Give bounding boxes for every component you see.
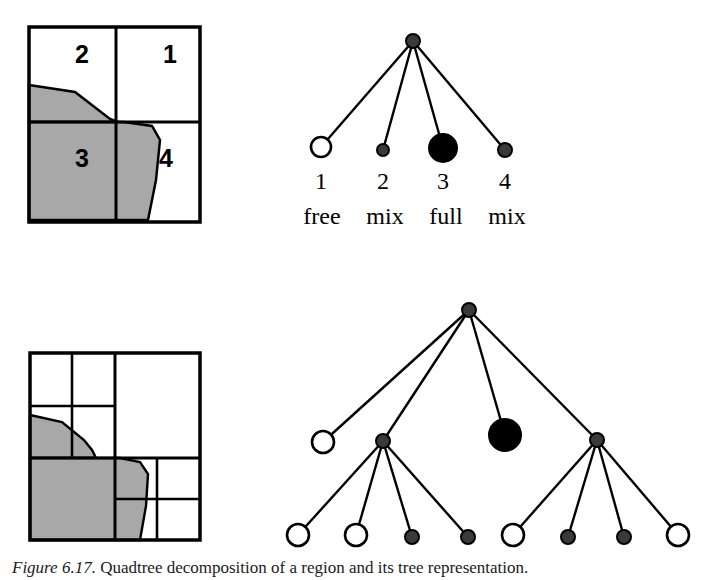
bottom-tree-svg	[0, 0, 721, 580]
btree-node-l1-mix-left[interactable]	[376, 434, 390, 448]
btree-leaf-5-free[interactable]	[502, 524, 524, 546]
btree-node-l1-free[interactable]	[312, 431, 334, 453]
btree-leaf-7-mix[interactable]	[617, 530, 631, 544]
btree-node-l1-mix-right[interactable]	[590, 433, 604, 447]
btree-leaf-6-mix[interactable]	[561, 530, 575, 544]
btree-node-l1-full[interactable]	[489, 419, 521, 451]
figure-root: 2 1 3 4 1 2 3 4	[0, 0, 721, 580]
btree-node-root[interactable]	[462, 303, 476, 317]
btree-leaf-1-free[interactable]	[287, 524, 309, 546]
figure-caption-text: Quadtree decomposition of a region and i…	[100, 558, 528, 577]
btree-leaf-2-free[interactable]	[345, 524, 367, 546]
figure-caption-label: Figure 6.17.	[12, 558, 96, 577]
btree-leaf-3-mix[interactable]	[405, 530, 419, 544]
btree-edge-left-4	[383, 441, 468, 537]
btree-edge-right-2	[568, 440, 597, 537]
btree-edge-left-3	[383, 441, 412, 537]
btree-edge-right-1	[513, 440, 597, 535]
figure-caption: Figure 6.17. Quadtree decomposition of a…	[12, 558, 712, 578]
btree-leaf-8-free[interactable]	[667, 524, 689, 546]
btree-leaf-4-mix[interactable]	[461, 530, 475, 544]
